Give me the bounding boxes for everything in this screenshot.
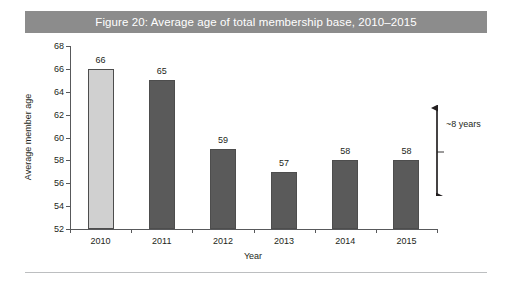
y-tick-label: 68 bbox=[54, 41, 64, 51]
x-tick-label: 2012 bbox=[213, 236, 233, 246]
y-tick-label: 60 bbox=[54, 133, 64, 143]
y-tick-label: 58 bbox=[54, 155, 64, 165]
y-axis-title: Average member age bbox=[23, 94, 33, 180]
x-tick-label: 2011 bbox=[152, 236, 171, 246]
y-tick-mark bbox=[66, 46, 70, 47]
bar-2012[interactable] bbox=[210, 149, 236, 229]
x-tick-label: 2014 bbox=[335, 236, 355, 246]
x-tick-label: 2013 bbox=[274, 236, 294, 246]
y-tick-label: 64 bbox=[54, 87, 64, 97]
range-annotation: ~8 years bbox=[420, 56, 512, 196]
y-tick-mark bbox=[66, 115, 70, 116]
x-tick-mark bbox=[192, 229, 193, 233]
bar-2010[interactable] bbox=[88, 69, 114, 229]
y-tick-mark bbox=[66, 206, 70, 207]
bar-2011[interactable] bbox=[149, 80, 175, 229]
y-axis-line bbox=[70, 46, 71, 229]
bar-2015[interactable] bbox=[393, 160, 419, 229]
bar-value-label-2014: 58 bbox=[340, 146, 350, 156]
chart-container: Average member age Year 5254565860626466… bbox=[0, 36, 512, 258]
y-tick-mark bbox=[66, 92, 70, 93]
y-tick-mark bbox=[66, 69, 70, 70]
y-tick-mark bbox=[66, 160, 70, 161]
x-tick-mark bbox=[131, 229, 132, 233]
x-tick-mark bbox=[70, 229, 71, 233]
x-tick-label: 2015 bbox=[396, 236, 416, 246]
y-tick-label: 56 bbox=[54, 178, 64, 188]
plot-area: 525456586062646668 201020112012201320142… bbox=[70, 46, 437, 229]
bar-2013[interactable] bbox=[271, 172, 297, 229]
y-tick-label: 52 bbox=[54, 224, 64, 234]
annotation-label: ~8 years bbox=[446, 119, 481, 129]
x-tick-mark bbox=[254, 229, 255, 233]
bar-value-label-2012: 59 bbox=[218, 135, 228, 145]
y-tick-label: 62 bbox=[54, 110, 64, 120]
bottom-divider bbox=[25, 272, 487, 273]
bar-value-label-2011: 65 bbox=[157, 66, 167, 76]
figure-title-text: Figure 20: Average age of total membersh… bbox=[95, 16, 416, 28]
bar-2014[interactable] bbox=[332, 160, 358, 229]
x-tick-mark bbox=[437, 229, 438, 233]
bar-value-label-2013: 57 bbox=[279, 158, 289, 168]
y-tick-mark bbox=[66, 183, 70, 184]
figure-title-banner: Figure 20: Average age of total membersh… bbox=[25, 11, 487, 33]
x-tick-label: 2010 bbox=[91, 236, 111, 246]
y-tick-mark bbox=[66, 138, 70, 139]
bar-value-label-2015: 58 bbox=[401, 146, 411, 156]
x-tick-mark bbox=[376, 229, 377, 233]
y-tick-label: 66 bbox=[54, 64, 64, 74]
bar-value-label-2010: 66 bbox=[96, 55, 106, 65]
y-tick-label: 54 bbox=[54, 201, 64, 211]
x-tick-mark bbox=[315, 229, 316, 233]
x-axis-title: Year bbox=[244, 251, 262, 261]
